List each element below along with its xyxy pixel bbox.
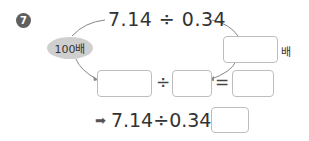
right-multiplier-unit: 배 (281, 43, 291, 59)
equals-operator: = (215, 72, 229, 92)
top-expression: 7.14 ÷ 0.34 (108, 8, 226, 30)
bottom-equation: ➡ 7.14÷0.34= (95, 109, 227, 131)
problem-number-badge: 7 (16, 13, 31, 28)
right-multiplier-input[interactable] (223, 36, 278, 63)
dividend-input[interactable] (97, 70, 152, 97)
answer-input[interactable] (211, 107, 249, 133)
divisor-input[interactable] (172, 70, 212, 97)
bottom-expression: 7.14÷0.34= (111, 109, 227, 131)
left-multiplier-label: 100배 (47, 37, 93, 59)
divide-operator: ÷ (156, 72, 170, 92)
arrow-right-icon: ➡ (95, 113, 106, 128)
result-input[interactable] (232, 70, 274, 97)
